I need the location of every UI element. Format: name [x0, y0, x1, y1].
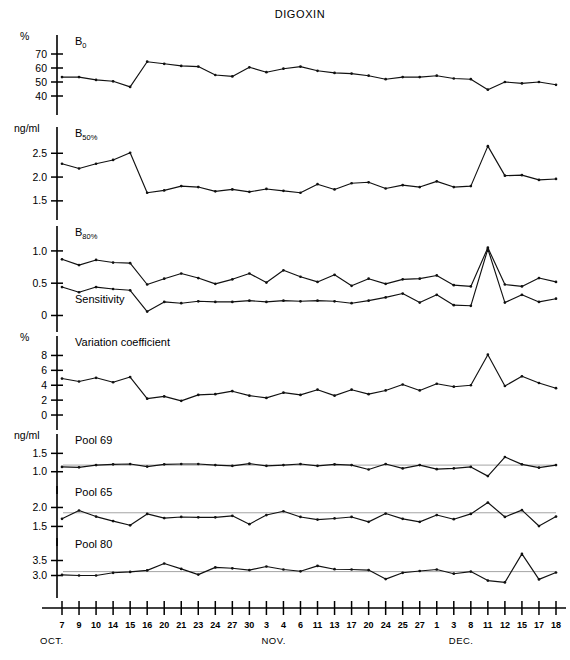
data-point: [504, 301, 507, 304]
data-point: [435, 180, 438, 183]
data-point: [521, 375, 524, 378]
data-point: [61, 76, 64, 79]
data-point: [469, 285, 472, 288]
panel-b80: 00.51.0B80%Sensitivity: [32, 226, 557, 332]
x-tick-label-10: 27: [227, 620, 237, 630]
data-point: [435, 568, 438, 571]
data-point: [316, 299, 319, 302]
data-point: [265, 188, 268, 191]
data-point: [418, 277, 421, 280]
data-point: [418, 186, 421, 189]
data-point: [435, 514, 438, 517]
data-point: [197, 277, 200, 280]
data-point: [180, 463, 183, 466]
data-point: [452, 77, 455, 80]
data-point: [282, 269, 285, 272]
data-point: [299, 394, 302, 397]
data-point: [112, 571, 115, 574]
data-point: [129, 463, 132, 466]
data-point: [129, 289, 132, 292]
data-point: [316, 518, 319, 521]
series-line-b0-0: [62, 62, 556, 90]
x-tick-label-5: 16: [142, 620, 152, 630]
data-point: [350, 568, 353, 571]
x-tick-label-22: 1: [434, 620, 439, 630]
data-point: [333, 463, 336, 466]
y-tick-label-b0-1: 50: [35, 76, 47, 88]
data-point: [95, 515, 98, 518]
x-tick-label-16: 13: [330, 620, 340, 630]
panel-pool80: 3.03.5Pool 80: [32, 538, 557, 598]
data-point: [231, 514, 234, 517]
x-tick-label-19: 24: [381, 620, 391, 630]
data-point: [299, 463, 302, 466]
data-point: [78, 380, 81, 383]
data-point: [521, 463, 524, 466]
data-point: [367, 299, 370, 302]
data-point: [555, 281, 558, 284]
data-point: [401, 467, 404, 470]
data-point: [350, 302, 353, 305]
data-point: [299, 300, 302, 303]
data-point: [299, 191, 302, 194]
data-point: [146, 465, 149, 468]
data-point: [401, 517, 404, 520]
data-point: [384, 282, 387, 285]
data-point: [163, 189, 166, 192]
data-point: [248, 523, 251, 526]
data-point: [504, 456, 507, 459]
data-point: [61, 466, 64, 469]
data-point: [112, 463, 115, 466]
data-point: [282, 190, 285, 193]
data-point: [129, 571, 132, 574]
data-point: [95, 79, 98, 82]
data-point: [163, 395, 166, 398]
panel-unit-pool69: ng/ml: [14, 429, 40, 441]
data-point: [112, 80, 115, 83]
series-line-b80-1: [62, 249, 556, 312]
x-month-label-0: OCT.: [40, 635, 64, 646]
data-point: [61, 517, 64, 520]
x-month-label-2: DEC.: [449, 635, 474, 646]
data-point: [231, 75, 234, 78]
data-point: [112, 261, 115, 264]
data-point: [350, 464, 353, 467]
data-point: [384, 187, 387, 190]
data-point: [384, 512, 387, 515]
data-point: [78, 76, 81, 79]
data-point: [180, 400, 183, 403]
data-point: [401, 76, 404, 79]
data-point: [214, 301, 217, 304]
data-point: [367, 393, 370, 396]
data-point: [521, 509, 524, 512]
data-point: [265, 514, 268, 517]
data-point: [112, 288, 115, 291]
data-point: [469, 570, 472, 573]
data-point: [61, 574, 64, 577]
data-point: [146, 569, 149, 572]
x-tick-label-3: 14: [108, 620, 118, 630]
data-point: [384, 296, 387, 299]
data-point: [61, 377, 64, 380]
data-point: [487, 145, 490, 148]
data-point: [333, 72, 336, 75]
data-point: [180, 185, 183, 188]
data-point: [333, 273, 336, 276]
panel-label-sub-b50: 50%: [82, 133, 97, 142]
data-point: [214, 282, 217, 285]
data-point: [282, 510, 285, 513]
data-point: [265, 71, 268, 74]
panel-label-sub-b80: 80%: [82, 232, 97, 241]
panel-label-pool69: Pool 69: [75, 434, 112, 446]
data-point: [129, 262, 132, 265]
series-line-pool69-0: [62, 457, 556, 476]
data-point: [163, 301, 166, 304]
data-point: [146, 310, 149, 313]
data-point: [316, 69, 319, 72]
data-point: [282, 464, 285, 467]
x-month-label-1: NOV.: [261, 635, 285, 646]
data-point: [469, 304, 472, 307]
panel-unit-b50: ng/ml: [14, 122, 40, 134]
data-point: [197, 463, 200, 466]
data-point: [282, 67, 285, 70]
